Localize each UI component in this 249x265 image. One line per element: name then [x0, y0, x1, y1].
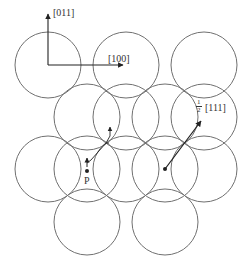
bcc-atom-packing-diagram	[0, 0, 249, 265]
burgers-direction-label: [111]	[205, 103, 226, 113]
fraction-denominator: 2	[196, 107, 202, 114]
point-p-label: P	[84, 176, 90, 186]
burgers-fraction: 1 2	[196, 99, 202, 114]
axis-011-label: [011]	[53, 8, 74, 18]
atom-circle	[171, 136, 237, 202]
axis-100-label: [100]	[108, 54, 130, 64]
atom-circle	[15, 136, 81, 202]
burgers-vector-arrow	[165, 121, 201, 169]
displacement-path	[87, 143, 106, 163]
point-p-dot	[85, 169, 89, 173]
atom-circle	[54, 189, 120, 255]
atom-circle	[132, 189, 198, 255]
